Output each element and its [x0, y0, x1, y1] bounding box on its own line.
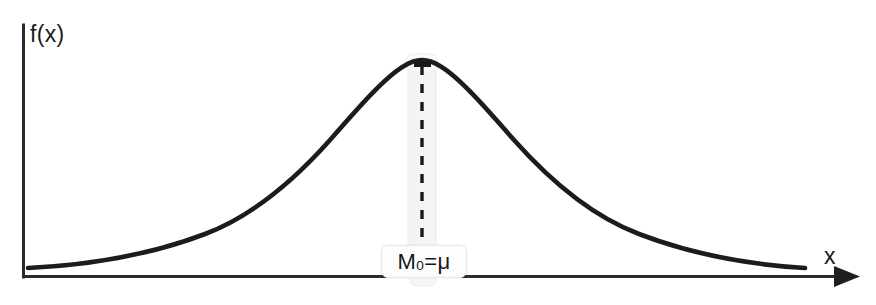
- mode-label-suffix: =μ: [424, 249, 450, 275]
- mode-label-prefix: M: [397, 249, 416, 275]
- normal-distribution-figure: f(x) x M0=μ: [0, 0, 876, 305]
- x-axis-arrowhead: [834, 266, 860, 287]
- mode-label-subscript: 0: [416, 258, 424, 273]
- y-axis-label: f(x): [30, 21, 64, 48]
- mode-equals-mean-label: M0=μ: [381, 245, 467, 278]
- x-axis-label: x: [824, 243, 836, 270]
